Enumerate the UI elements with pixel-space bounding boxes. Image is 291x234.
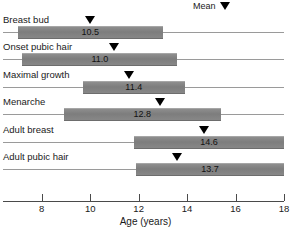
row-label-adult-pubic-hair: Adult pubic hair: [3, 151, 68, 162]
mean-value-label: 14.6: [200, 137, 218, 148]
x-tick-label: 14: [182, 203, 193, 214]
x-tick-label: 8: [39, 203, 44, 214]
x-tick-label: 10: [85, 203, 96, 214]
chart-row: Adult pubic hair13.7: [0, 151, 291, 178]
chart-row: Adult breast14.6: [0, 124, 291, 151]
chart-row: Breast bud10.5: [0, 14, 291, 41]
x-tick: [187, 194, 188, 201]
row-label-adult-breast: Adult breast: [3, 124, 54, 135]
x-tick: [284, 194, 285, 201]
mean-marker-icon: [172, 153, 182, 161]
row-label-breast-bud: Breast bud: [3, 14, 49, 25]
x-tick-label: 12: [133, 203, 144, 214]
mean-value-label: 12.8: [134, 109, 152, 120]
x-axis-title: Age (years): [0, 216, 291, 228]
row-label-maximal-growth: Maximal growth: [3, 69, 70, 80]
x-axis: 81012141618 Age (years): [0, 194, 291, 234]
puberty-milestone-chart: Mean Breast bud10.5Onset pubic hair11.0M…: [0, 0, 291, 234]
mean-marker-icon: [109, 43, 119, 51]
mean-marker-icon: [199, 126, 209, 134]
x-tick: [42, 194, 43, 201]
x-tick: [236, 194, 237, 201]
x-tick: [139, 194, 140, 201]
mean-value-label: 11.0: [91, 54, 108, 65]
mean-marker-icon: [124, 71, 134, 79]
chart-row: Menarche12.8: [0, 96, 291, 123]
x-tick: [90, 194, 91, 201]
mean-value-label: 13.7: [201, 164, 219, 175]
legend-label-mean: Mean: [193, 1, 216, 11]
chart-row: Maximal growth11.4: [0, 69, 291, 96]
row-label-menarche: Menarche: [3, 96, 45, 107]
down-triangle-icon: [220, 2, 230, 10]
chart-row: Onset pubic hair11.0: [0, 41, 291, 68]
x-tick-label: 16: [230, 203, 241, 214]
x-tick-label: 18: [279, 203, 290, 214]
mean-value-label: 10.5: [81, 27, 99, 38]
mean-marker-icon: [155, 98, 165, 106]
mean-marker-icon: [85, 16, 95, 24]
chart-legend: Mean: [193, 1, 230, 11]
x-axis-line: [3, 201, 284, 202]
row-label-onset-pubic-hair: Onset pubic hair: [3, 41, 72, 52]
mean-value-label: 11.4: [125, 82, 142, 93]
